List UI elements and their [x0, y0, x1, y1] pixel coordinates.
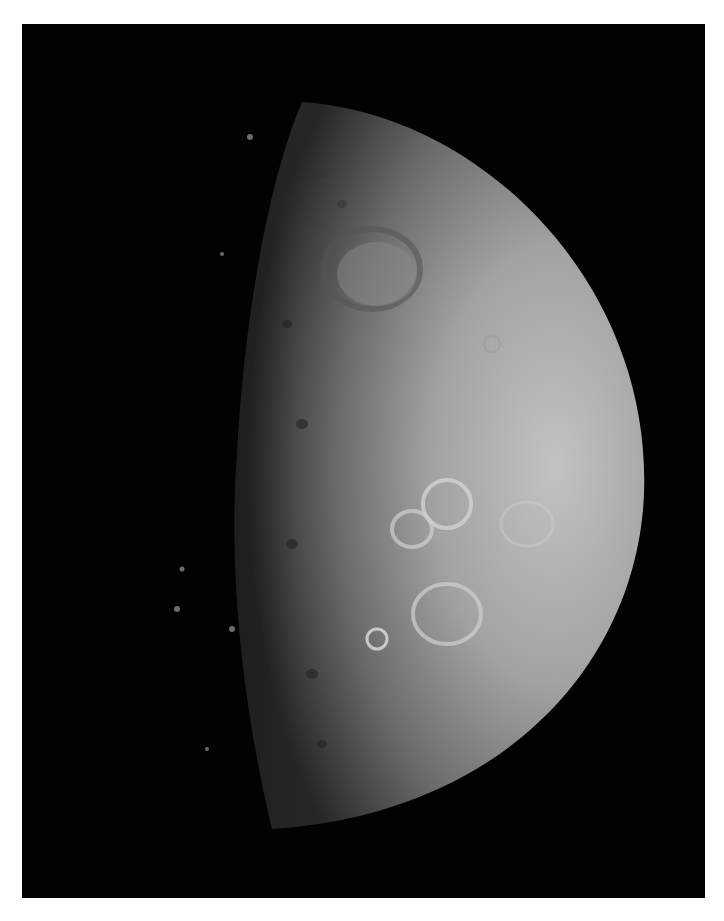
moon-disk	[22, 24, 705, 898]
photo-frame	[22, 24, 705, 898]
craters	[22, 24, 705, 898]
moon-photo	[22, 24, 705, 898]
